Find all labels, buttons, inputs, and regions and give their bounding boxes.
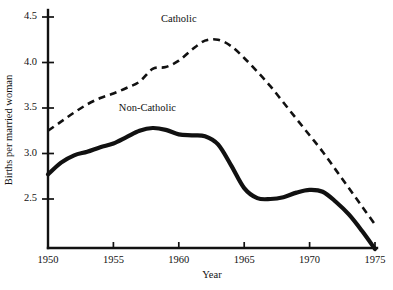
- y-tick-label-4.0: 4.0: [24, 56, 37, 67]
- x-axis-group: 195019551960196519701975: [38, 242, 386, 265]
- y-axis-title: Births per married woman: [3, 74, 14, 185]
- x-tick-label-1950: 1950: [38, 254, 59, 265]
- y-tick-label-4.5: 4.5: [24, 10, 37, 21]
- x-axis-title: Year: [202, 269, 222, 280]
- x-tick-label-1970: 1970: [299, 254, 320, 265]
- x-axis-tick-labels: 195019551960196519701975: [38, 254, 386, 265]
- x-tick-label-1965: 1965: [234, 254, 255, 265]
- x-tick-label-1960: 1960: [168, 254, 189, 265]
- chart-container: 2.53.03.54.04.5 195019551960196519701975…: [0, 0, 393, 290]
- y-tick-label-2.5: 2.5: [24, 192, 37, 203]
- x-tick-label-1955: 1955: [103, 254, 124, 265]
- series-line-non-catholic: [48, 128, 375, 249]
- x-tick-label-1975: 1975: [365, 254, 386, 265]
- y-tick-label-3.0: 3.0: [24, 147, 37, 158]
- y-axis-tick-labels: 2.53.03.54.04.5: [24, 10, 37, 203]
- births-per-married-woman-line-chart: 2.53.03.54.04.5 195019551960196519701975…: [0, 0, 393, 290]
- series-label-non-catholic: Non-Catholic: [119, 102, 176, 113]
- series-line-catholic: [48, 39, 375, 224]
- series-label-catholic: Catholic: [161, 13, 197, 24]
- y-tick-label-3.5: 3.5: [24, 101, 37, 112]
